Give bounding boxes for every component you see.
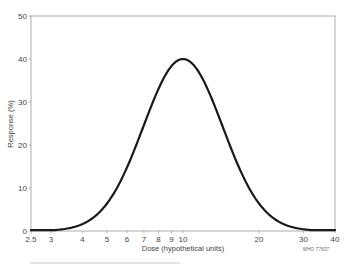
x-tick-label: 8	[156, 235, 161, 244]
x-tick-label: 30	[299, 235, 308, 244]
plot-frame	[31, 16, 335, 231]
y-tick-label: 40	[18, 55, 27, 64]
y-axis-title: Response (%)	[6, 100, 15, 148]
x-tick-label: 7	[142, 235, 147, 244]
x-tick-label: 5	[105, 235, 110, 244]
x-axis: 2.5345678910203040	[25, 231, 340, 244]
y-tick-label: 30	[18, 98, 27, 107]
x-tick-label: 40	[331, 235, 340, 244]
dose-response-chart: 01020304050 2.5345678910203040 Response …	[0, 0, 348, 266]
response-curve	[31, 59, 335, 230]
figure-code: WHO 77637	[303, 247, 330, 252]
x-tick-label: 3	[49, 235, 54, 244]
x-axis-title: Dose (hypothetical units)	[142, 244, 225, 253]
x-tick-label: 6	[125, 235, 130, 244]
x-tick-label: 20	[255, 235, 264, 244]
x-tick-label: 10	[179, 235, 188, 244]
x-tick-label: 4	[80, 235, 85, 244]
x-tick-label: 9	[169, 235, 174, 244]
figure-caption-fragment	[30, 262, 180, 264]
x-tick-label: 2.5	[25, 235, 37, 244]
y-axis: 01020304050	[18, 12, 31, 236]
y-tick-label: 20	[18, 141, 27, 150]
y-tick-label: 50	[18, 12, 27, 21]
y-tick-label: 10	[18, 184, 27, 193]
